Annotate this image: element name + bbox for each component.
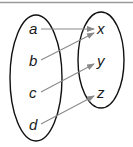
mapping-diagram: a b c d x y z [0,0,133,147]
domain-label-a: a [29,20,37,37]
arrow-b-to-x [41,33,94,60]
domain-label-b: b [29,52,37,69]
arrow-d-to-z [41,96,94,124]
codomain-label-x: x [96,20,105,37]
codomain-label-y: y [96,52,106,69]
arrow-c-to-y [41,64,94,92]
domain-label-c: c [29,84,37,101]
codomain-label-z: z [96,84,105,101]
domain-label-d: d [29,116,38,133]
